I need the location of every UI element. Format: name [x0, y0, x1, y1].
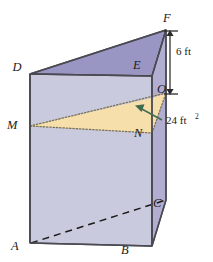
area-callout-superscript: 2 [195, 112, 199, 121]
vertex-label-d: D [11, 60, 21, 74]
vertex-label-n: N [133, 126, 143, 140]
vertex-label-e: E [132, 58, 141, 72]
area-callout-label: 24 ft [166, 114, 186, 126]
vertex-label-b: B [121, 243, 129, 257]
prism-svg-canvas: F D E O M N C A B 6 ft 24 ft 2 [0, 0, 213, 262]
vertex-label-o: O [157, 82, 166, 96]
height-dimension-label: 6 ft [176, 45, 191, 57]
vertex-label-m: M [6, 118, 18, 132]
vertex-label-a: A [10, 239, 19, 253]
vertex-label-f: F [162, 11, 171, 25]
front-face [30, 74, 152, 246]
vertex-label-c: C [153, 196, 162, 210]
geometry-figure: F D E O M N C A B 6 ft 24 ft 2 [0, 0, 213, 262]
